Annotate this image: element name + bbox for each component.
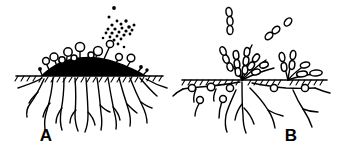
panel-a-label: A <box>40 126 52 145</box>
detached-chain-vertical <box>225 7 233 35</box>
fungal-morphology-illustration: A <box>0 0 337 154</box>
sporangiophore <box>88 52 94 58</box>
figure-container: A <box>0 0 337 154</box>
panel-b-label: B <box>285 126 297 145</box>
